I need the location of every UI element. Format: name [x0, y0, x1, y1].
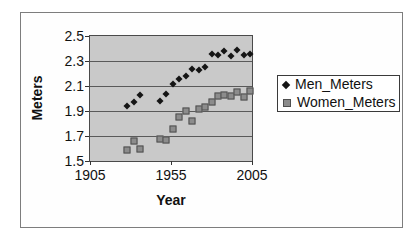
men-data-point — [163, 90, 170, 97]
x-tick-label: 2005 — [230, 167, 274, 183]
legend: Men_Meters Women_Meters — [277, 75, 400, 112]
y-tick-label: 2.1 — [50, 78, 84, 94]
men-data-point — [221, 47, 228, 54]
women-data-point — [176, 114, 183, 121]
y-tick-label: 2.5 — [50, 28, 84, 44]
women-data-point — [169, 125, 176, 132]
women-data-point — [189, 118, 196, 125]
gridline — [90, 136, 252, 137]
x-tick-label: 1905 — [68, 167, 112, 183]
x-tick-mark — [252, 161, 253, 165]
x-tick-mark — [171, 161, 172, 165]
women-data-point — [130, 138, 137, 145]
y-tick-mark — [85, 136, 89, 137]
men-data-point — [247, 50, 254, 57]
men-data-point — [227, 52, 234, 59]
women-data-point — [137, 145, 144, 152]
women-data-point — [208, 99, 215, 106]
y-tick-mark — [85, 111, 89, 112]
x-tick-label: 1955 — [149, 167, 193, 183]
x-tick-mark — [90, 161, 91, 165]
women-data-point — [124, 146, 131, 153]
legend-item-women: Women_Meters — [283, 95, 394, 110]
legend-item-men: Men_Meters — [283, 77, 394, 92]
men-data-point — [137, 91, 144, 98]
women-series-square-icon — [283, 99, 291, 107]
women-data-point — [163, 136, 170, 143]
y-tick-mark — [85, 61, 89, 62]
men-series-diamond-icon — [282, 80, 290, 88]
men-data-point — [124, 102, 131, 109]
y-tick-mark — [85, 36, 89, 37]
women-data-point — [247, 88, 254, 95]
y-axis-title: Meters — [29, 75, 45, 120]
x-axis-title: Year — [156, 192, 186, 208]
men-data-point — [156, 97, 163, 104]
y-tick-mark — [85, 161, 89, 162]
men-data-point — [234, 46, 241, 53]
men-data-point — [214, 51, 221, 58]
y-tick-label: 1.7 — [50, 128, 84, 144]
men-data-point — [182, 72, 189, 79]
men-data-point — [189, 65, 196, 72]
women-data-point — [240, 94, 247, 101]
men-data-point — [130, 99, 137, 106]
women-data-point — [182, 108, 189, 115]
gridline — [90, 61, 252, 62]
legend-label-men: Men_Meters — [295, 77, 373, 92]
legend-label-women: Women_Meters — [297, 95, 396, 110]
y-tick-label: 2.3 — [50, 53, 84, 69]
plot-area: 1.51.71.92.12.32.5190519552005 — [89, 35, 253, 162]
y-tick-mark — [85, 86, 89, 87]
y-tick-label: 1.9 — [50, 103, 84, 119]
gridline — [90, 111, 252, 112]
